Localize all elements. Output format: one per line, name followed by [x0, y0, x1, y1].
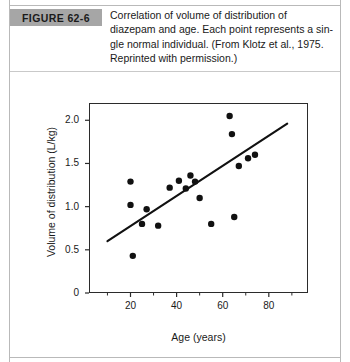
data-point [236, 163, 242, 169]
data-point [231, 214, 237, 220]
data-point [127, 178, 133, 184]
data-point [187, 172, 193, 178]
data-point [196, 195, 202, 201]
x-axis-title: Age (years) [89, 331, 308, 343]
figure-border-top [9, 5, 341, 6]
data-point [130, 253, 136, 259]
data-point [155, 222, 161, 228]
caption-line: Correlation of volume of distribution of [110, 8, 335, 22]
data-point [229, 131, 235, 137]
caption-line: diazepam and age. Each point represents … [110, 22, 335, 36]
data-point [166, 184, 172, 190]
data-point [176, 178, 182, 184]
data-point [245, 155, 251, 161]
data-point [192, 178, 198, 184]
caption-line: gle normal individual. (From Klotz et al… [110, 37, 335, 51]
y-axis-title: Volume of distribution (L/kg) [45, 102, 57, 282]
caption-line: Reprinted with permission.) [110, 51, 335, 65]
data-point [208, 221, 214, 227]
figure-number-badge: FIGURE 62-6 [10, 9, 102, 26]
data-point [183, 185, 189, 191]
y-tick-label: 0 [49, 287, 79, 298]
data-point [139, 221, 145, 227]
data-point [252, 152, 258, 158]
figure-container: FIGURE 62-6 Correlation of volume of dis… [0, 0, 350, 362]
x-tick-label: 20 [115, 300, 145, 311]
scatter-chart: 00.51.01.52.020406080 Volume of distribu… [0, 78, 350, 362]
data-point [143, 206, 149, 212]
x-tick-label: 40 [162, 300, 192, 311]
x-tick-label: 80 [254, 300, 284, 311]
x-tick-label: 60 [208, 300, 238, 311]
data-point [127, 202, 133, 208]
caption-separator-rule [10, 71, 340, 72]
figure-caption: Correlation of volume of distribution of… [110, 8, 335, 66]
data-point [226, 113, 232, 119]
